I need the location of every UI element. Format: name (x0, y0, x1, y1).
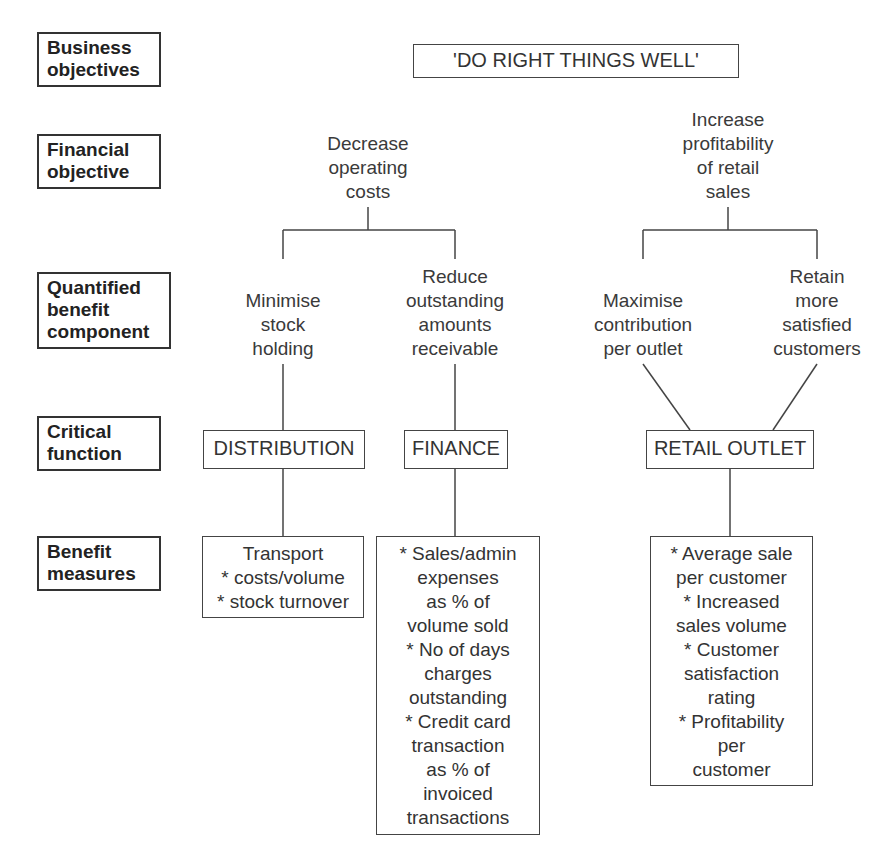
measures-finance: * Sales/admin expenses as % of volume so… (376, 536, 540, 835)
row-label-critical-function: Critical function (37, 416, 161, 471)
component-retain-customers: Retain more satisfied customers (757, 265, 877, 361)
row-label-quantified-benefit-component: Quantified benefit component (37, 272, 171, 349)
business-objective-box: 'DO RIGHT THINGS WELL' (413, 44, 739, 78)
financial-objective-decrease-costs: Decrease operating costs (290, 132, 446, 204)
financial-objective-increase-profitability: Increase profitability of retail sales (648, 108, 808, 204)
measures-retail-outlet: * Average sale per customer * Increased … (650, 536, 813, 786)
row-label-benefit-measures: Benefit measures (37, 536, 161, 591)
row-label-business-objectives: Business objectives (37, 32, 161, 87)
row-label-financial-objective: Financial objective (37, 134, 161, 189)
measures-distribution: Transport * costs/volume * stock turnove… (202, 536, 364, 618)
component-maximise-contribution: Maximise contribution per outlet (578, 289, 708, 361)
component-reduce-receivables: Reduce outstanding amounts receivable (385, 265, 525, 361)
function-finance: FINANCE (404, 430, 508, 469)
function-retail-outlet: RETAIL OUTLET (646, 430, 814, 469)
component-minimise-stock: Minimise stock holding (213, 289, 353, 361)
function-distribution: DISTRIBUTION (203, 430, 365, 469)
